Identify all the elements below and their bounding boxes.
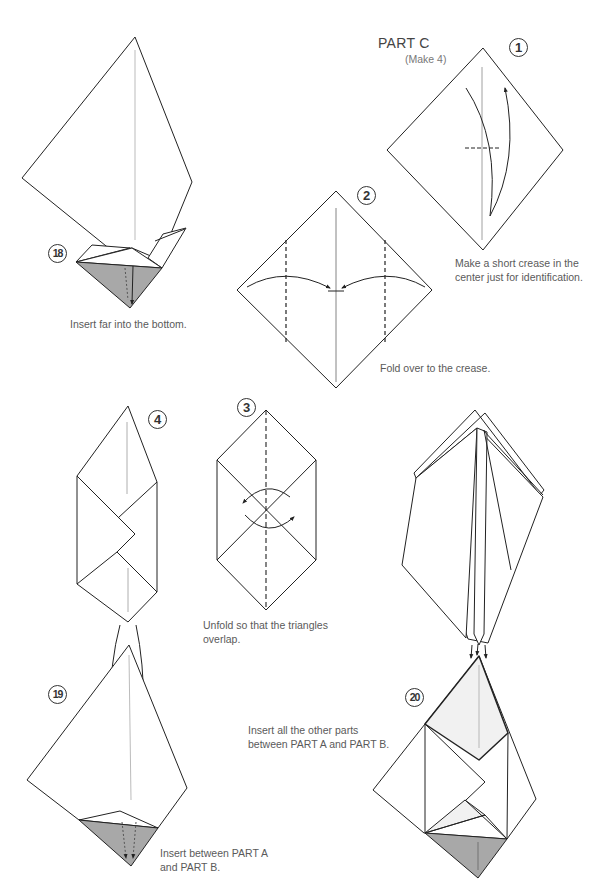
- step-3-caption-line-2: overlap.: [203, 632, 328, 646]
- step-1-caption-line-1: Make a short crease in the: [455, 256, 583, 270]
- step-19-caption: Insert between PART A and PART B.: [160, 846, 268, 874]
- step-1-diagram: [387, 48, 563, 250]
- step-number-18: 18: [48, 244, 67, 263]
- step-number-2: 2: [357, 186, 376, 205]
- page-heading: PART C: [378, 35, 430, 51]
- step-2-diagram: [237, 191, 432, 388]
- step-number-20: 20: [405, 688, 424, 707]
- step-3-caption: Unfold so that the triangles overlap.: [203, 618, 328, 646]
- step-19-caption-line-2: and PART B.: [160, 860, 268, 874]
- step-4-diagram: [77, 406, 157, 622]
- step-number-19: 19: [48, 685, 67, 704]
- step-20-caption-line-1: Insert all the other parts: [248, 723, 389, 737]
- step-19-diagram: [27, 625, 187, 866]
- step-3-caption-line-1: Unfold so that the triangles: [203, 618, 328, 632]
- step-1-caption-line-2: center just for identification.: [455, 270, 583, 284]
- step-20-caption: Insert all the other parts between PART …: [248, 723, 389, 751]
- page-subheading: (Make 4): [405, 53, 446, 65]
- step-number-3: 3: [237, 398, 256, 417]
- step-20-top-diagram: [402, 410, 544, 658]
- step-3-diagram: [217, 410, 316, 610]
- step-18-diagram: [22, 37, 192, 308]
- step-number-1: 1: [509, 38, 528, 57]
- step-number-4: 4: [148, 410, 167, 429]
- step-19-caption-line-1: Insert between PART A: [160, 846, 268, 860]
- step-20-caption-line-2: between PART A and PART B.: [248, 737, 389, 751]
- step-20-bottom-diagram: [373, 656, 536, 878]
- step-1-caption: Make a short crease in the center just f…: [455, 256, 583, 284]
- step-18-caption: Insert far into the bottom.: [70, 317, 187, 331]
- step-2-caption: Fold over to the crease.: [380, 361, 490, 375]
